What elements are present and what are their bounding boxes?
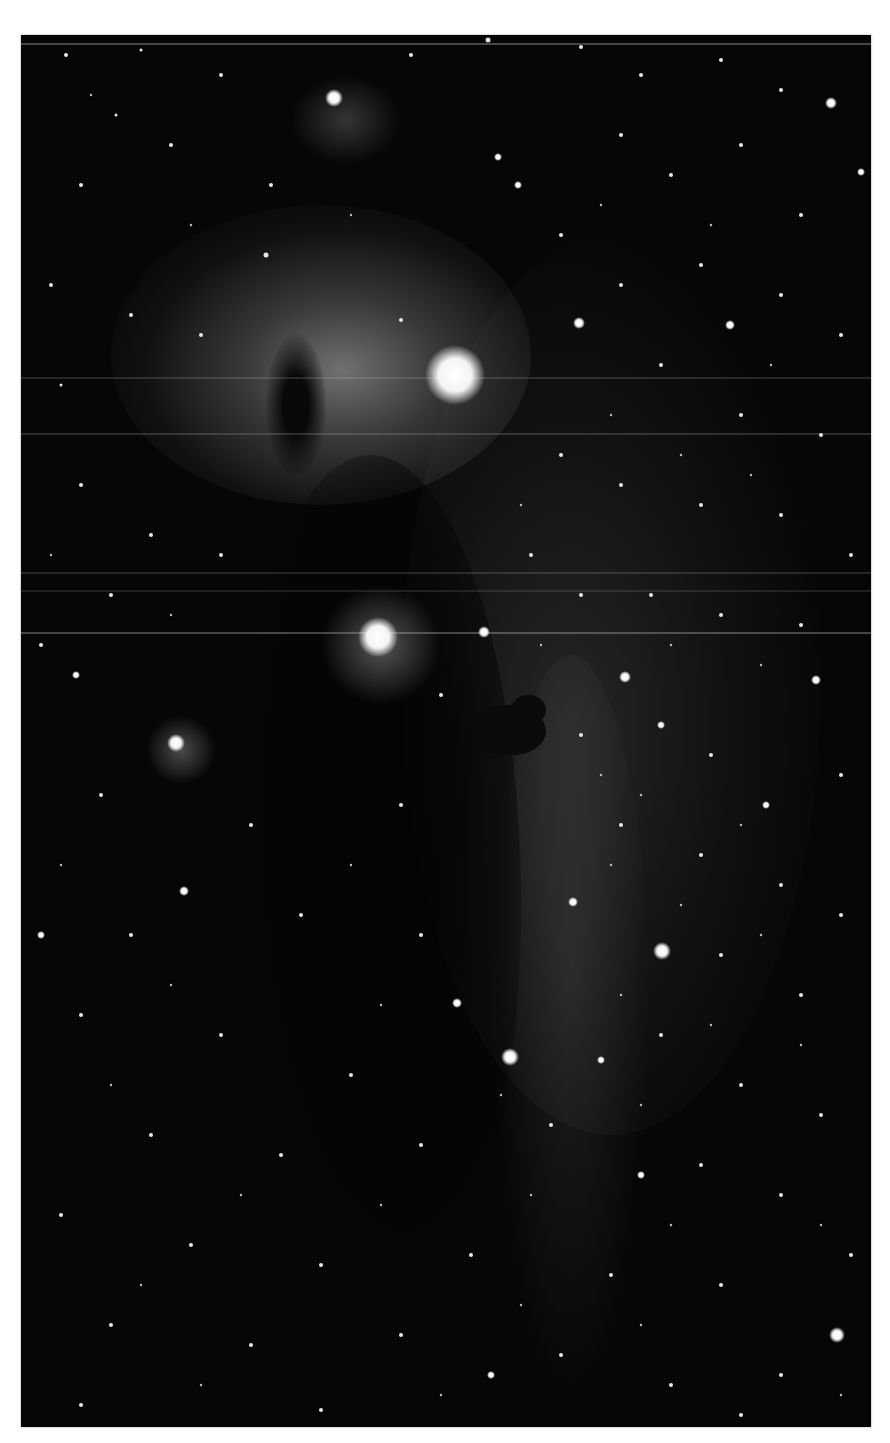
figure-caption <box>62 1431 862 1443</box>
astro-photograph <box>21 35 871 1427</box>
star-field <box>21 35 871 1427</box>
bright-star-icon <box>425 345 485 405</box>
